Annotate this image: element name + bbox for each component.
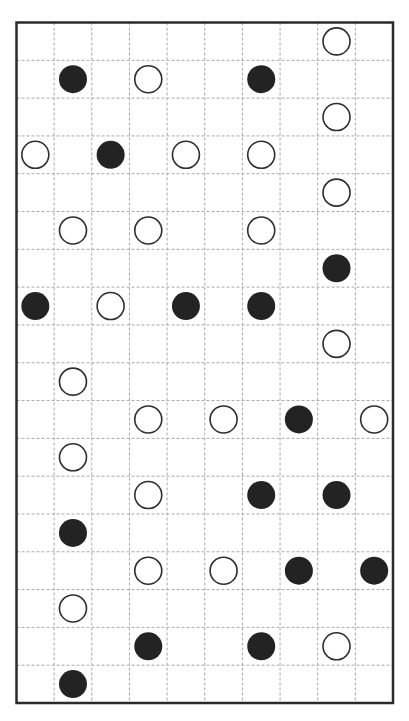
grid-cell[interactable] — [167, 665, 205, 703]
grid-cell[interactable] — [17, 627, 55, 665]
grid-cell[interactable] — [205, 212, 243, 250]
grid-cell[interactable] — [242, 325, 280, 363]
grid-cell[interactable] — [355, 665, 393, 703]
grid-cell[interactable] — [54, 476, 92, 514]
grid-cell[interactable] — [280, 23, 318, 61]
grid-cell[interactable] — [92, 514, 130, 552]
grid-cell[interactable] — [92, 590, 130, 628]
grid-cell[interactable] — [242, 438, 280, 476]
grid-cell[interactable] — [205, 514, 243, 552]
grid-cell[interactable] — [280, 665, 318, 703]
grid-cell[interactable] — [355, 627, 393, 665]
grid-cell[interactable] — [129, 287, 167, 325]
grid-cell[interactable] — [17, 249, 55, 287]
grid-cell[interactable] — [355, 60, 393, 98]
grid-cell[interactable] — [205, 98, 243, 136]
grid-cell[interactable] — [92, 174, 130, 212]
grid-cell[interactable] — [54, 287, 92, 325]
grid-cell[interactable] — [355, 249, 393, 287]
grid-cell[interactable] — [17, 174, 55, 212]
grid-cell[interactable] — [280, 212, 318, 250]
grid-cell[interactable] — [205, 249, 243, 287]
grid-cell[interactable] — [167, 249, 205, 287]
grid-cell[interactable] — [129, 136, 167, 174]
grid-cell[interactable] — [17, 401, 55, 439]
grid-cell[interactable] — [355, 287, 393, 325]
grid-cell[interactable] — [17, 60, 55, 98]
grid-cell[interactable] — [242, 552, 280, 590]
grid-cell[interactable] — [17, 98, 55, 136]
grid-cell[interactable] — [92, 325, 130, 363]
grid-cell[interactable] — [129, 665, 167, 703]
grid-cell[interactable] — [92, 23, 130, 61]
grid-cell[interactable] — [355, 23, 393, 61]
grid-cell[interactable] — [54, 136, 92, 174]
grid-cell[interactable] — [167, 60, 205, 98]
grid-cell[interactable] — [54, 174, 92, 212]
grid-cell[interactable] — [242, 514, 280, 552]
grid-cell[interactable] — [167, 98, 205, 136]
grid-cell[interactable] — [318, 287, 356, 325]
grid-cell[interactable] — [17, 212, 55, 250]
grid-cell[interactable] — [167, 174, 205, 212]
grid-cell[interactable] — [280, 438, 318, 476]
grid-cell[interactable] — [54, 627, 92, 665]
grid-cell[interactable] — [242, 363, 280, 401]
grid-cell[interactable] — [17, 590, 55, 628]
grid-cell[interactable] — [205, 287, 243, 325]
grid-cell[interactable] — [242, 23, 280, 61]
grid-cell[interactable] — [54, 552, 92, 590]
grid-cell[interactable] — [54, 325, 92, 363]
grid-cell[interactable] — [205, 363, 243, 401]
grid-cell[interactable] — [54, 249, 92, 287]
grid-cell[interactable] — [167, 476, 205, 514]
grid-cell[interactable] — [318, 60, 356, 98]
grid-cell[interactable] — [17, 514, 55, 552]
grid-cell[interactable] — [280, 627, 318, 665]
grid-cell[interactable] — [92, 552, 130, 590]
grid-cell[interactable] — [205, 665, 243, 703]
grid-cell[interactable] — [280, 60, 318, 98]
grid-cell[interactable] — [280, 325, 318, 363]
grid-cell[interactable] — [242, 665, 280, 703]
grid-cell[interactable] — [280, 249, 318, 287]
grid-cell[interactable] — [17, 325, 55, 363]
grid-cell[interactable] — [318, 363, 356, 401]
grid-cell[interactable] — [242, 174, 280, 212]
grid-cell[interactable] — [92, 665, 130, 703]
grid-cell[interactable] — [167, 401, 205, 439]
grid-cell[interactable] — [205, 60, 243, 98]
grid-cell[interactable] — [92, 60, 130, 98]
grid-cell[interactable] — [54, 401, 92, 439]
grid-cell[interactable] — [17, 363, 55, 401]
grid-cell[interactable] — [205, 476, 243, 514]
grid-cell[interactable] — [242, 401, 280, 439]
grid-cell[interactable] — [355, 325, 393, 363]
grid-cell[interactable] — [17, 438, 55, 476]
grid-cell[interactable] — [205, 438, 243, 476]
grid-cell[interactable] — [92, 476, 130, 514]
grid-cell[interactable] — [129, 325, 167, 363]
grid-cell[interactable] — [318, 136, 356, 174]
grid-cell[interactable] — [318, 514, 356, 552]
grid-cell[interactable] — [242, 98, 280, 136]
grid-cell[interactable] — [205, 136, 243, 174]
grid-cell[interactable] — [318, 552, 356, 590]
grid-cell[interactable] — [17, 23, 55, 61]
grid-cell[interactable] — [92, 363, 130, 401]
grid-cell[interactable] — [280, 590, 318, 628]
grid-cell[interactable] — [355, 514, 393, 552]
grid-cell[interactable] — [280, 136, 318, 174]
grid-cell[interactable] — [280, 98, 318, 136]
grid-cell[interactable] — [355, 438, 393, 476]
grid-cell[interactable] — [205, 174, 243, 212]
grid-cell[interactable] — [167, 325, 205, 363]
grid-cell[interactable] — [167, 590, 205, 628]
grid-cell[interactable] — [355, 136, 393, 174]
grid-cell[interactable] — [355, 98, 393, 136]
grid-cell[interactable] — [92, 627, 130, 665]
grid-cell[interactable] — [318, 665, 356, 703]
grid-cell[interactable] — [355, 174, 393, 212]
grid-cell[interactable] — [167, 627, 205, 665]
grid-cell[interactable] — [167, 23, 205, 61]
